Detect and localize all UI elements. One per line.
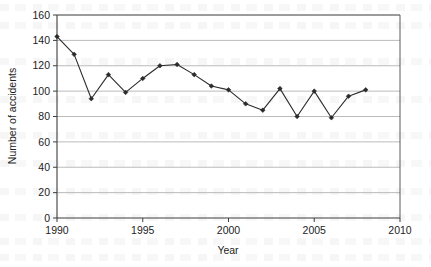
x-axis-ticks — [57, 218, 400, 222]
x-axis-tick-labels: 19901995200020052010 — [45, 224, 412, 236]
y-axis-tick-labels: 020406080100120140160 — [32, 9, 50, 224]
y-tick-label: 100 — [32, 85, 50, 97]
y-tick-label: 0 — [44, 212, 50, 224]
series-markers-accidents — [55, 34, 368, 120]
y-tick-label: 40 — [38, 161, 50, 173]
x-tick-label: 1995 — [131, 224, 155, 236]
y-tick-label: 120 — [32, 59, 50, 71]
x-tick-label: 2000 — [217, 224, 241, 236]
y-tick-label: 60 — [38, 136, 50, 148]
y-tick-label: 20 — [38, 186, 50, 198]
x-tick-label: 2005 — [303, 224, 327, 236]
chart-canvas: 020406080100120140160 199019952000200520… — [0, 0, 431, 267]
series-line-accidents — [57, 37, 366, 118]
y-tick-label: 140 — [32, 34, 50, 46]
y-tick-label: 80 — [38, 110, 50, 122]
gridlines — [57, 15, 400, 193]
x-axis-title: Year — [217, 244, 239, 256]
y-axis-ticks — [53, 15, 57, 218]
x-tick-label: 1990 — [45, 224, 69, 236]
accidents-line-chart: 020406080100120140160 199019952000200520… — [0, 0, 431, 267]
y-tick-label: 160 — [32, 9, 50, 21]
y-axis-title: Number of accidents — [6, 68, 18, 164]
x-tick-label: 2010 — [388, 224, 412, 236]
